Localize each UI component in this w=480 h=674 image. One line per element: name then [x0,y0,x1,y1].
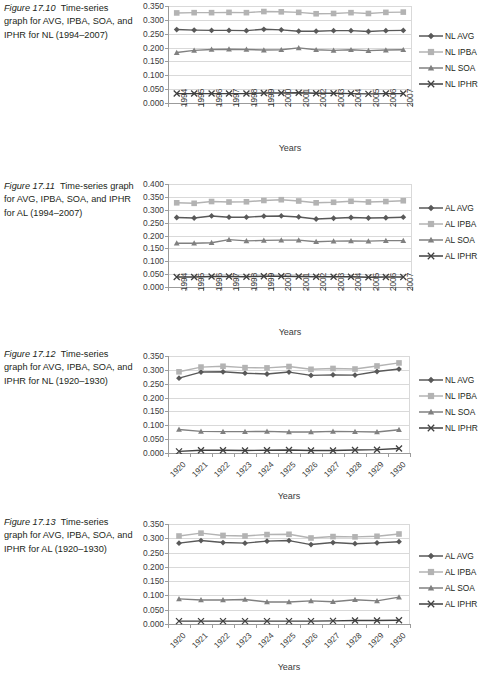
x-axis-tick-label: 1930 [388,631,407,650]
y-axis-tick-label: 0.350 [143,193,164,201]
x-axis-tick-label: 2007 [406,89,415,107]
x-axis-tick-label: 1921 [190,631,209,650]
y-axis-tick-label: 0.350 [143,352,164,360]
x-axis-tick-label: 1920 [168,460,187,479]
y-axis-labels: 0.0000.0500.1000.1500.2000.2500.3000.350 [128,356,164,453]
x-axis-tick [234,453,235,457]
legend-label: NL IPBA [445,391,477,401]
legend-label: NL SOA [445,63,475,73]
y-axis-labels: 0.0000.0500.1000.1500.2000.2500.3000.350 [128,524,164,624]
x-axis-tick-label: 1997 [232,273,241,291]
x-axis-tick-label: 1995 [197,89,206,107]
x-axis-tick-label: 1929 [366,460,385,479]
figure-number: Figure 17.10 [4,3,56,13]
y-axis-tick-label: 0.150 [143,407,164,415]
plot-area: 0.0000.0500.1000.1500.2000.2500.3000.350… [168,524,410,624]
x-axis-tick-label: 2003 [337,273,346,291]
legend-label: AL SOA [445,235,475,245]
x-axis-tick [168,624,169,628]
y-axis-tick-label: 0.300 [143,206,164,214]
y-axis-tick-label: 0.250 [143,548,164,556]
y-axis-tick-label: 0.000 [143,99,164,107]
plot-area: 0.0000.0500.1000.1500.2000.2500.3000.350… [168,6,412,103]
y-axis-tick-label: 0.050 [143,85,164,93]
y-axis-tick-label: 0.000 [143,283,164,291]
y-axis-tick-label: 0.300 [143,366,164,374]
x-axis-tick-label: 2001 [302,89,311,107]
x-axis-tick [410,624,411,628]
y-axis-labels: 0.0000.0500.1000.1500.2000.2500.3000.350 [128,6,164,103]
x-axis-tick [366,453,367,457]
x-axis-tick-label: 2002 [319,273,328,291]
x-axis-tick-label: 1930 [388,460,407,479]
figure-number: Figure 17.13 [4,517,56,527]
x-axis-title: Years [168,491,410,501]
x-axis-labels: 1920192119221923192419251926192719281929… [168,629,410,665]
x-axis-tick [212,453,213,457]
legend-diamond-icon [418,28,444,44]
x-axis-tick-label: 1927 [322,631,341,650]
y-axis-tick-label: 0.050 [143,435,164,443]
x-axis-tick-label: 1996 [215,89,224,107]
figure-number: Figure 17.12 [4,349,56,359]
plot-area: 0.0000.0500.1000.1500.2000.2500.3000.350… [168,184,412,287]
y-axis-tick-label: 0.100 [143,591,164,599]
legend-square-icon [418,564,444,580]
y-axis-tick-label: 0.300 [143,534,164,542]
x-axis-labels: 1994199519961997199819992000200120022003… [168,291,412,327]
x-axis-title: Years [168,662,410,672]
x-axis-tick-label: 2006 [389,89,398,107]
legend-label: NL IPHR [445,79,478,89]
x-axis-tick-label: 1924 [256,631,275,650]
x-axis-tick-label: 1998 [250,89,259,107]
y-axis-tick-label: 0.150 [143,57,164,65]
y-axis-tick-label: 0.200 [143,563,164,571]
y-axis-tick-label: 0.100 [143,421,164,429]
legend-diamond-icon [418,200,444,216]
legend-square-icon [418,216,444,232]
legend-label: AL IPHR [445,251,477,261]
x-axis-labels: 1994199519961997199819992000200120022003… [168,107,412,143]
x-axis-tick [212,624,213,628]
y-axis-tick-label: 0.000 [143,620,164,628]
x-axis-tick-label: 1921 [190,460,209,479]
x-axis-tick [278,453,279,457]
y-axis-tick-label: 0.150 [143,244,164,252]
x-axis-tick [388,453,389,457]
x-axis-tick-label: 1922 [212,631,231,650]
x-axis-tick [256,453,257,457]
legend-cross-icon [418,248,444,264]
x-axis-tick [300,624,301,628]
figure-caption: Figure 17.11 Time-series graph for AVG, … [4,180,134,220]
x-axis-tick-label: 1995 [197,273,206,291]
x-axis-tick [256,624,257,628]
y-axis-tick-label: 0.000 [143,449,164,457]
x-axis-tick [344,453,345,457]
x-axis-title: Years [168,143,412,153]
legend-cross-icon [418,76,444,92]
y-axis-labels: 0.0000.0500.1000.1500.2000.2500.3000.350… [128,184,164,287]
x-axis-tick-label: 2005 [372,273,381,291]
x-axis-tick [322,453,323,457]
y-axis-tick-label: 0.200 [143,231,164,239]
series-layer [168,356,410,454]
x-axis-tick-label: 1994 [180,89,189,107]
y-axis-tick-label: 0.200 [143,43,164,51]
x-axis-tick [234,624,235,628]
y-axis-tick-label: 0.150 [143,577,164,585]
figure-caption: Figure 17.13 Time-series graph for AVG, … [4,516,134,556]
x-axis-tick [366,624,367,628]
x-axis-tick-label: 2003 [337,89,346,107]
legend-label: AL IPBA [445,567,476,577]
y-axis-tick-label: 0.300 [143,16,164,24]
legend-cross-icon [418,420,444,436]
x-axis-tick-label: 1923 [234,460,253,479]
y-axis-tick-label: 0.250 [143,218,164,226]
x-axis-tick [168,453,169,457]
legend-label: NL SOA [445,407,475,417]
x-axis-tick-label: 2006 [389,273,398,291]
plot-area: 0.0000.0500.1000.1500.2000.2500.3000.350… [168,356,410,453]
x-axis-tick-label: 1996 [215,273,224,291]
legend-square-icon [418,44,444,60]
legend-label: AL SOA [445,583,475,593]
